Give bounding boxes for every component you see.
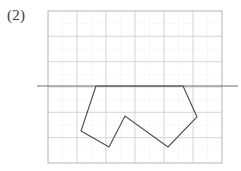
geometry-diagram <box>0 0 241 171</box>
figure-container: (2) <box>0 0 241 171</box>
